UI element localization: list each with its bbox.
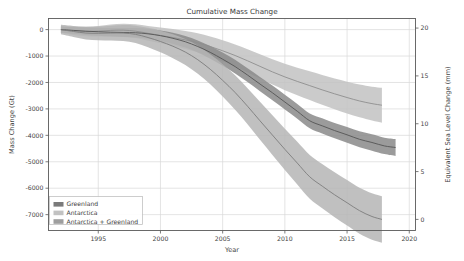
xtick-label: 2015	[339, 235, 355, 242]
legend-label: Antarctica + Greenland	[67, 218, 139, 225]
xtick-label: 2005	[215, 235, 231, 242]
chart-figure: 0-1000-2000-3000-4000-5000-6000-70000510…	[0, 0, 464, 261]
y2tick-label: 0	[421, 216, 425, 223]
cumulative-mass-change-chart: 0-1000-2000-3000-4000-5000-6000-70000510…	[0, 0, 464, 261]
legend-label: Greenland	[67, 200, 99, 207]
chart-title: Cumulative Mass Change	[186, 7, 278, 16]
ytick-label: -3000	[26, 105, 44, 112]
y2tick-label: 20	[421, 24, 429, 31]
y2tick-label: 15	[421, 72, 429, 79]
xtick-label: 1995	[90, 235, 106, 242]
ytick-label: -7000	[26, 211, 44, 218]
ytick-label: -5000	[26, 158, 44, 165]
ytick-label: -6000	[26, 184, 44, 191]
ytick-label: -1000	[26, 52, 44, 59]
legend-swatch	[54, 219, 64, 224]
xtick-label: 2010	[277, 235, 293, 242]
y2tick-label: 5	[421, 168, 425, 175]
ytick-label: 0	[40, 26, 44, 33]
y2tick-label: 10	[421, 120, 429, 127]
y2-axis-title: Equivalent Sea Level Change (mm)	[444, 66, 452, 182]
legend-swatch	[54, 202, 64, 207]
legend-swatch	[54, 211, 64, 216]
xtick-label: 2020	[401, 235, 417, 242]
ytick-label: -4000	[26, 132, 44, 139]
ytick-label: -2000	[26, 79, 44, 86]
y-axis-title: Mass Change (Gt)	[8, 95, 16, 154]
legend: GreenlandAntarcticaAntarctica + Greenlan…	[50, 197, 143, 225]
legend-label: Antarctica	[67, 209, 98, 216]
x-axis-title: Year	[224, 246, 239, 254]
xtick-label: 2000	[153, 235, 169, 242]
